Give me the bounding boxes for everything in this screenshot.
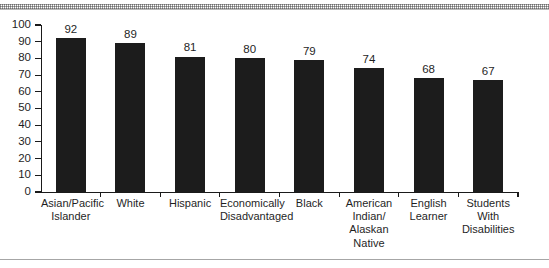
y-axis-tick-label: 70 <box>18 69 31 81</box>
category-label-line: Disabilities <box>458 223 518 236</box>
bar: 92 <box>56 38 86 192</box>
y-axis-tick-label: 40 <box>18 119 31 131</box>
y-axis-tick-label: 80 <box>18 53 31 65</box>
x-axis-category-label: White <box>101 197 161 210</box>
x-axis-category-label: Asian/PacificIslander <box>41 197 101 223</box>
category-label-line: Asian/Pacific <box>41 197 101 210</box>
x-axis-category-label: AmericanIndian/AlaskanNative <box>339 197 399 250</box>
y-axis-tick-label: 60 <box>18 86 31 98</box>
y-axis-tick-label: 90 <box>18 36 31 48</box>
category-label-line: English <box>399 197 459 210</box>
y-axis-tick-label: 100 <box>12 19 31 31</box>
y-axis-tick-label: 50 <box>18 103 31 115</box>
x-axis-category-label: EconomicallyDisadvantaged <box>220 197 280 223</box>
category-label-line: Hispanic <box>160 197 220 210</box>
category-label-line: Economically <box>220 197 280 210</box>
category-label-line: American <box>339 197 399 210</box>
category-label-line: Disadvantaged <box>220 210 280 223</box>
x-axis-category-label: StudentsWithDisabilities <box>458 197 518 237</box>
bar-value-label: 74 <box>363 54 376 66</box>
bar-chart-figure: 0102030405060708090100 9289818079746867 … <box>0 0 549 268</box>
bar-value-label: 68 <box>422 64 435 76</box>
category-label-line: Islander <box>41 210 101 223</box>
top-rule-line <box>0 9 549 10</box>
category-label-line: Indian/ <box>339 210 399 223</box>
bar-value-label: 80 <box>243 44 256 56</box>
x-axis-category-label: Hispanic <box>160 197 220 210</box>
category-label-line: Alaskan <box>339 223 399 236</box>
category-label-line: White <box>101 197 161 210</box>
y-axis-tick-label: 0 <box>25 186 31 198</box>
x-axis-category-label: Black <box>280 197 340 210</box>
plot-area: 9289818079746867 <box>41 25 518 192</box>
bar: 67 <box>473 80 503 192</box>
bar-value-label: 79 <box>303 46 316 58</box>
bar-value-label: 67 <box>482 66 495 78</box>
y-axis-tick-label: 10 <box>18 170 31 182</box>
category-label-line: Native <box>339 237 399 250</box>
bar: 89 <box>115 43 145 192</box>
bottom-decorative-rule <box>0 259 549 260</box>
bar-value-label: 89 <box>124 29 137 41</box>
bar-value-label: 92 <box>64 24 77 36</box>
bar: 74 <box>354 68 384 192</box>
category-label-line: Students <box>458 197 518 210</box>
category-label-line: With <box>458 210 518 223</box>
bar: 68 <box>414 78 444 192</box>
y-axis-tick-label: 20 <box>18 153 31 165</box>
category-label-line: Learner <box>399 210 459 223</box>
category-label-line: Black <box>280 197 340 210</box>
bar: 80 <box>235 58 265 192</box>
y-axis-tick-label: 30 <box>18 136 31 148</box>
x-axis-category-label: EnglishLearner <box>399 197 459 223</box>
bar: 81 <box>175 57 205 192</box>
bar-value-label: 81 <box>184 42 197 54</box>
bar: 79 <box>294 60 324 192</box>
